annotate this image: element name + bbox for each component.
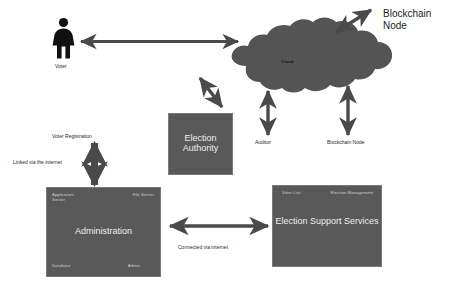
election-authority-box[interactable]: Election Authority <box>168 113 233 175</box>
linked-via-internet-label: Linked via the internet <box>13 159 62 165</box>
connected-via-internet-label: Connected via internet <box>178 244 228 250</box>
voter-registration-label: Voter Registration <box>52 133 92 139</box>
election-support-services-title: Election Support Services <box>273 217 381 227</box>
diagram-canvas: Cloud Voter Blockchain Node Auditor Bloc… <box>0 0 449 291</box>
administration-corner-application-server: Application Server <box>52 193 74 203</box>
cloud-shape <box>232 18 392 93</box>
cloud-label: Cloud <box>281 59 293 64</box>
blockchain-node-top-label: Blockchain Node <box>383 8 431 32</box>
administration-corner-file-server: File Server <box>133 193 154 198</box>
blockchain-node-bottom-label: Blockchain Node <box>327 139 365 145</box>
administration-box[interactable]: Application Server File Server Database … <box>46 187 161 277</box>
election-authority-title: Election Authority <box>169 134 232 154</box>
administration-corner-database: Database <box>52 264 71 269</box>
administration-corner-admin: Admin <box>128 264 140 269</box>
auditor-label: Auditor <box>255 139 271 145</box>
administration-title: Administration <box>47 227 160 237</box>
election-support-services-box[interactable]: Voter List Election Management Election … <box>272 185 382 267</box>
support-services-corner-election-management: Election Management <box>331 191 373 196</box>
person-icon <box>53 18 75 59</box>
voter-label: Voter <box>55 63 67 69</box>
support-services-corner-voter-list: Voter List <box>282 191 300 196</box>
arrow-cloud-election-authority <box>200 78 222 107</box>
